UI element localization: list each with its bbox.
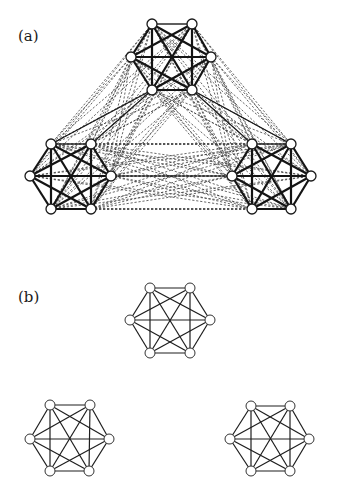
graph-node [225,434,235,444]
cluster-nodes [25,283,314,476]
graph-node [206,52,216,62]
bridge-edge [51,90,152,144]
graph-node [185,348,195,358]
inter-cluster-dashed-edge [152,24,291,144]
graph-node [286,139,296,149]
graph-node [46,139,56,149]
graph-node [25,434,35,444]
graph-node [247,204,257,214]
graph-node [104,434,114,444]
graph-node [246,466,256,476]
panel-a: (a) [18,19,316,214]
intra-cluster-edge [89,405,90,471]
graph-node [85,400,95,410]
graph-node [247,139,257,149]
graph-node [46,204,56,214]
inter-cluster-dashed-edge [30,144,252,176]
bridge-edge [192,90,291,144]
graph-node [106,171,116,181]
graph-node [147,19,157,29]
graph-node [286,204,296,214]
graph-node [45,400,55,410]
graph-node [45,466,55,476]
graph-node [304,434,314,444]
intra-cluster-edges [30,288,309,471]
graph-node [84,466,94,476]
inter-cluster-dashed-edge [131,57,232,176]
graph-node [246,401,256,411]
intra-cluster-edge [230,406,251,439]
panel-label-b: (b) [18,288,39,306]
graph-node [187,85,197,95]
graph-node [125,315,135,325]
graph-node [306,171,316,181]
graph-node [145,348,155,358]
graph-node [285,466,295,476]
network-figure: (a) (b) [0,0,337,499]
intra-cluster-edge [230,439,251,471]
graph-node [227,171,237,181]
panel-label-a: (a) [18,27,39,45]
graph-node [86,204,96,214]
graph-node [285,401,295,411]
graph-node [185,283,195,293]
inter-cluster-dashed-edge [192,90,232,176]
panel-b: (b) [18,283,314,476]
graph-node [126,52,136,62]
graph-node [147,85,157,95]
inter-cluster-dashed-edge [30,57,131,176]
graph-node [145,283,155,293]
graph-node [187,19,197,29]
graph-node [25,171,35,181]
graph-node [205,315,215,325]
graph-node [86,139,96,149]
